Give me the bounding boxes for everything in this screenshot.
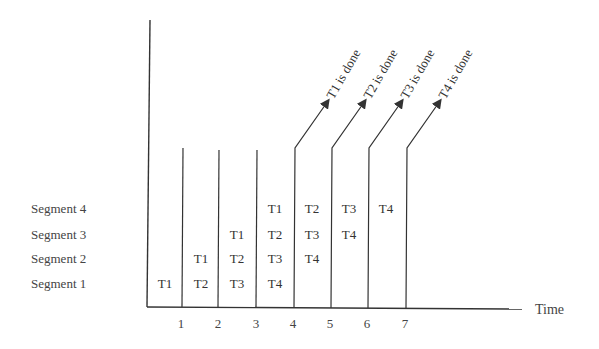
diagram-lines	[0, 0, 599, 349]
tick-4: 4	[290, 316, 297, 332]
cell: T4	[379, 201, 393, 217]
cell: T3	[342, 201, 356, 217]
divider-3	[256, 150, 257, 307]
x-axis-label: Time	[535, 302, 564, 318]
y-axis	[147, 20, 150, 307]
tick-7: 7	[402, 316, 409, 332]
tick-1: 1	[178, 316, 185, 332]
cell: T1	[230, 227, 244, 243]
pipeline-timing-diagram: Segment 1 Segment 2 Segment 3 Segment 4 …	[0, 0, 599, 349]
cell: T3	[305, 227, 319, 243]
cell: T3	[230, 276, 244, 292]
cell: T4	[268, 276, 282, 292]
cell: T2	[230, 251, 244, 267]
cell: T2	[305, 201, 319, 217]
divider-2	[218, 150, 219, 307]
done-arrow-4	[406, 101, 440, 308]
tick-2: 2	[215, 316, 222, 332]
tick-5: 5	[327, 316, 334, 332]
divider-1	[182, 148, 183, 307]
cell: T2	[268, 227, 282, 243]
segment-label-3: Segment 3	[31, 227, 86, 243]
segment-label-2: Segment 2	[31, 251, 86, 267]
cell: T4	[305, 251, 319, 267]
x-axis	[147, 307, 522, 309]
cell: T1	[194, 251, 208, 267]
cell: T3	[268, 251, 282, 267]
cell: T1	[268, 201, 282, 217]
segment-label-4: Segment 4	[31, 201, 86, 217]
cell: T2	[194, 276, 208, 292]
segment-label-1: Segment 1	[31, 276, 86, 292]
tick-3: 3	[253, 316, 260, 332]
cell: T4	[342, 227, 356, 243]
cell: T1	[158, 276, 172, 292]
tick-6: 6	[364, 316, 371, 332]
